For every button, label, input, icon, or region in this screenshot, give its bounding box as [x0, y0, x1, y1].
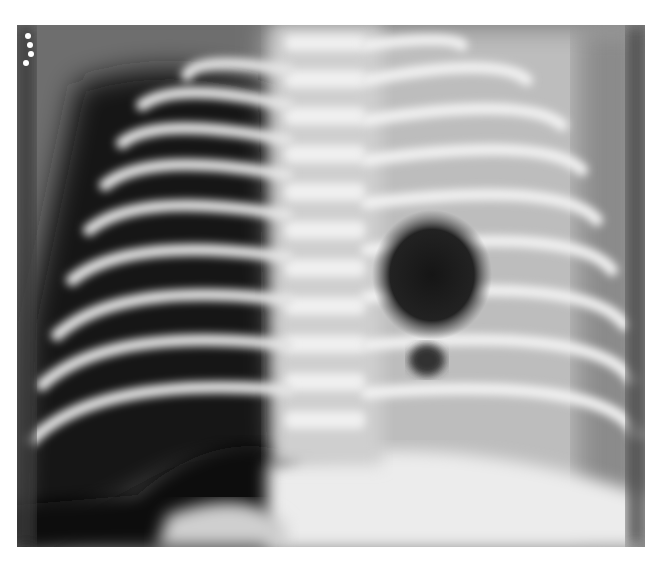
xray-rendering: [17, 25, 645, 547]
marker-dot: [28, 51, 34, 57]
marker-dot: [23, 60, 29, 66]
chest-xray-image: [17, 25, 645, 547]
marker-dot: [27, 42, 33, 48]
marker-dot: [25, 33, 31, 39]
